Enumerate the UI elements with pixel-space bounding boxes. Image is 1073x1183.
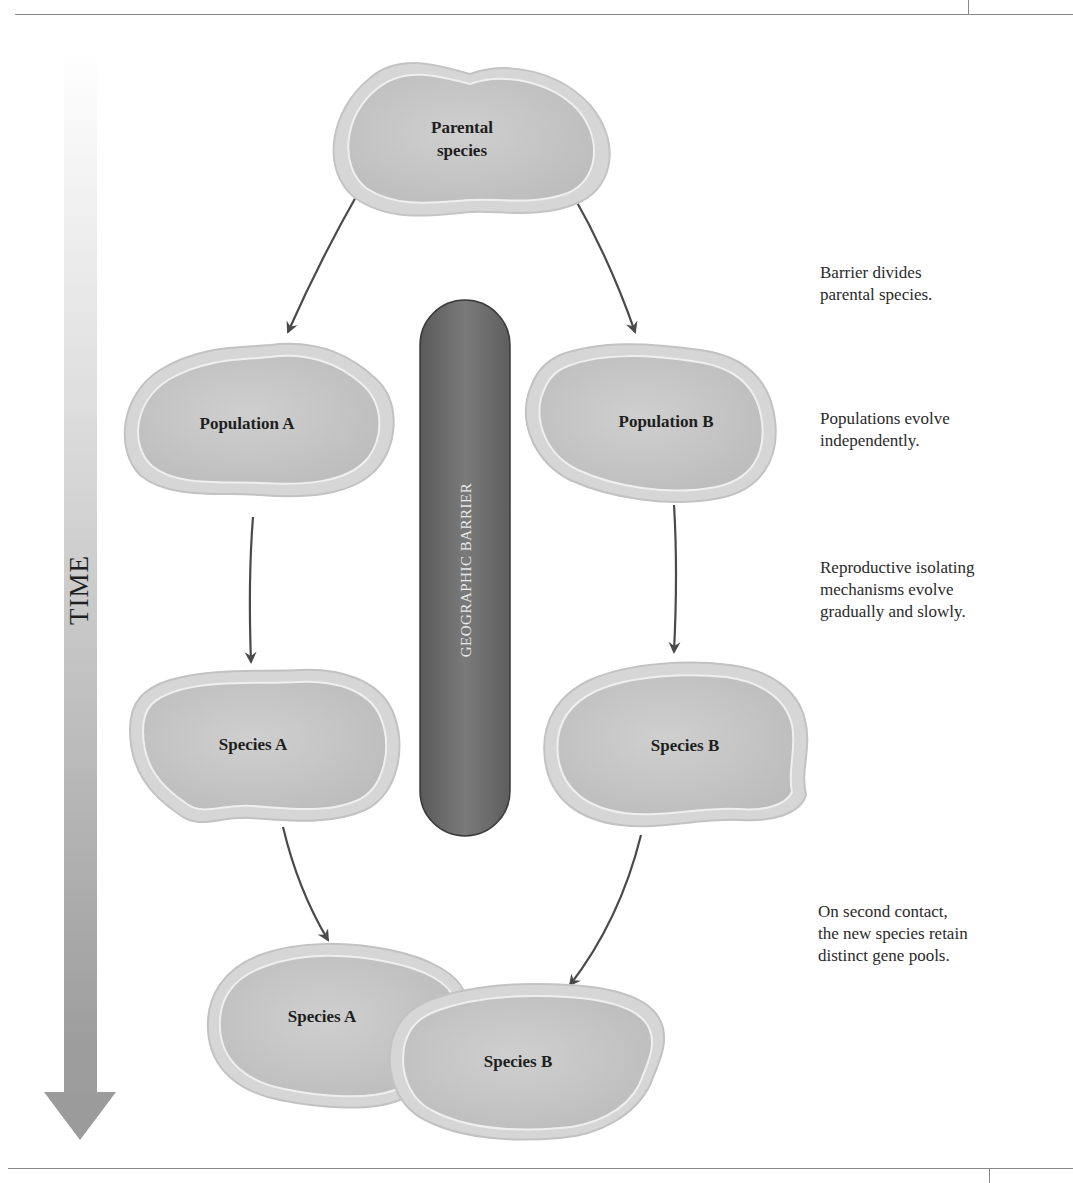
population-a-label: Population A (200, 413, 295, 436)
note-reproductive-isolation: Reproductive isolating mechanisms evolve… (820, 557, 974, 623)
note-line: distinct gene pools. (818, 945, 968, 967)
population-b-label: Population B (619, 411, 714, 434)
arrow-species-a-to-final (283, 827, 328, 940)
note-line: Populations evolve (820, 408, 950, 430)
parental-species-label: Parental species (431, 117, 493, 163)
final-species-a-label: Species A (288, 1006, 356, 1029)
arrow-parental-to-population-a (288, 195, 357, 332)
final-species-b-label: Species B (484, 1051, 552, 1074)
note-line: mechanisms evolve (820, 579, 974, 601)
arrow-population-a-to-species-a (250, 517, 253, 662)
arrow-species-b-to-final (570, 835, 641, 985)
note-line: Barrier divides (820, 262, 932, 284)
note-populations-evolve: Populations evolve independently. (820, 408, 950, 452)
note-line: gradually and slowly. (820, 601, 974, 623)
note-line: independently. (820, 430, 950, 452)
note-line: Reproductive isolating (820, 557, 974, 579)
note-barrier-divides: Barrier divides parental species. (820, 262, 932, 306)
time-axis-label: TIME (64, 555, 95, 625)
geographic-barrier-label: GEOGRAPHIC BARRIER (458, 483, 475, 657)
note-line: the new species retain (818, 923, 968, 945)
note-line: parental species. (820, 284, 932, 306)
note-line: On second contact, (818, 901, 968, 923)
species-a-label: Species A (219, 734, 287, 757)
note-second-contact: On second contact, the new species retai… (818, 901, 968, 967)
species-b-label: Species B (651, 735, 719, 758)
arrow-population-b-to-species-b (674, 505, 676, 652)
arrow-parental-to-population-b (573, 195, 635, 332)
parental-species-label-line2: species (431, 140, 493, 163)
parental-species-label-line1: Parental (431, 117, 493, 140)
